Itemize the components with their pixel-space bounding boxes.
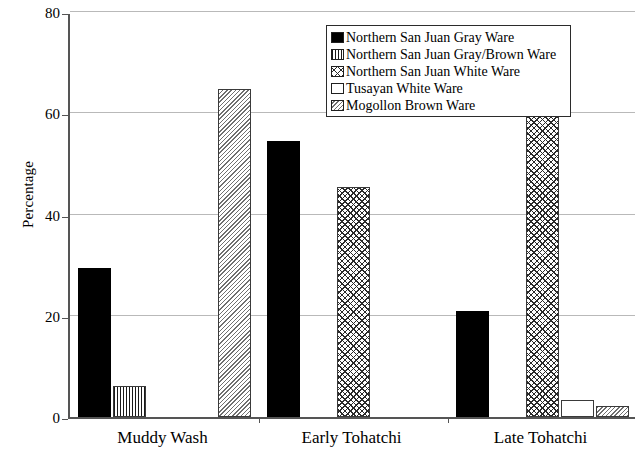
legend-item: Northern San Juan Gray Ware <box>331 29 570 46</box>
bar-0-1 <box>267 141 300 417</box>
legend-item: Northern San Juan White Ware <box>331 63 570 80</box>
figure-caption <box>52 447 642 455</box>
legend-item: Northern San Juan Gray/Brown Ware <box>331 46 570 63</box>
legend-swatch-icon <box>331 32 344 43</box>
y-axis-tick-label: 20 <box>0 310 60 325</box>
legend-swatch-icon <box>331 66 344 77</box>
chart-legend: Northern San Juan Gray WareNorthern San … <box>326 25 571 117</box>
bar-1-0 <box>113 386 146 417</box>
y-axis-tick-label: 80 <box>0 6 60 21</box>
legend-item-label: Mogollon Brown Ware <box>346 98 475 113</box>
y-axis-tick-label: 0 <box>0 411 60 426</box>
bar-4-0 <box>218 89 251 417</box>
y-axis-tick-label: 60 <box>0 107 60 122</box>
x-axis-tick-mark <box>448 418 449 423</box>
bar-0-2 <box>456 311 489 417</box>
legend-swatch-icon <box>331 49 344 60</box>
x-axis-group-label: Late Tohatchi <box>446 428 635 448</box>
legend-item-label: Northern San Juan Gray/Brown Ware <box>346 47 556 62</box>
bar-0-0 <box>78 268 111 417</box>
legend-item: Tusayan White Ware <box>331 80 570 97</box>
x-axis-group-label: Muddy Wash <box>68 428 257 448</box>
plot-area: Northern San Juan Gray WareNorthern San … <box>68 14 635 419</box>
y-axis-tick-mark <box>62 419 68 420</box>
y-axis-tick-label: 40 <box>0 209 60 224</box>
legend-item: Mogollon Brown Ware <box>331 97 570 114</box>
x-axis-group-label: Early Tohatchi <box>257 428 446 448</box>
bar-3-2 <box>561 400 594 417</box>
bar-2-1 <box>337 187 370 417</box>
bar-chart-figure: Percentage 020406080 Northern San Juan G… <box>0 0 642 455</box>
y-axis-title: Percentage <box>20 125 37 265</box>
legend-item-label: Tusayan White Ware <box>346 81 463 96</box>
legend-swatch-icon <box>331 83 344 94</box>
legend-swatch-icon <box>331 100 344 111</box>
bar-4-2 <box>596 406 629 417</box>
legend-item-label: Northern San Juan White Ware <box>346 64 520 79</box>
legend-item-label: Northern San Juan Gray Ware <box>346 30 514 45</box>
x-axis-tick-mark <box>259 418 260 423</box>
gridline <box>70 11 635 12</box>
